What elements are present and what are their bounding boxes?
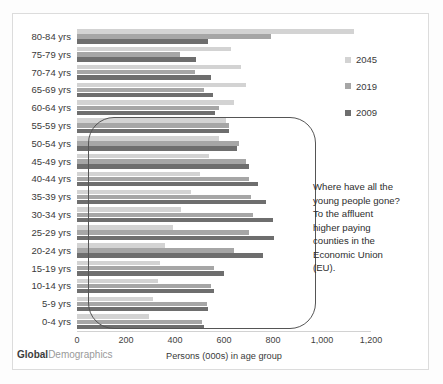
bar-group: 0-4 yrs bbox=[77, 313, 371, 331]
bar-group: 45-49 yrs bbox=[77, 153, 371, 171]
legend-label: 2009 bbox=[356, 108, 377, 118]
bar-2019 bbox=[77, 177, 249, 181]
category-label: 75-79 yrs bbox=[31, 50, 71, 60]
category-label: 25-29 yrs bbox=[31, 228, 71, 238]
brand-label: GlobalDemographics bbox=[17, 350, 113, 360]
x-tick-label: 0 bbox=[74, 335, 79, 345]
bar-2009 bbox=[77, 289, 214, 293]
bar-2009 bbox=[77, 164, 249, 168]
bar-2009 bbox=[77, 39, 208, 43]
bar-2045 bbox=[77, 207, 181, 211]
category-label: 55-59 yrs bbox=[31, 121, 71, 131]
bar-2019 bbox=[77, 230, 249, 234]
category-label: 80-84 yrs bbox=[31, 32, 71, 42]
x-axis-title: Persons (000s) in age group bbox=[166, 351, 282, 361]
category-label: 65-69 yrs bbox=[31, 85, 71, 95]
legend-item-2009[interactable]: 2009 bbox=[345, 108, 425, 118]
bar-2045 bbox=[77, 154, 209, 158]
bar-2019 bbox=[77, 34, 271, 38]
bar-group: 5-9 yrs bbox=[77, 295, 371, 313]
bar-2019 bbox=[77, 123, 229, 127]
bar-2045 bbox=[77, 279, 158, 283]
bar-group: 60-64 yrs bbox=[77, 99, 371, 117]
bar-2009 bbox=[77, 75, 211, 79]
x-tick-label: 800 bbox=[265, 335, 280, 345]
bar-2009 bbox=[77, 182, 258, 186]
bar-2009 bbox=[77, 253, 263, 257]
bar-2045 bbox=[77, 65, 241, 69]
category-label: 0-4 yrs bbox=[42, 317, 71, 327]
bar-2009 bbox=[77, 111, 215, 115]
legend-item-2019[interactable]: 2019 bbox=[345, 82, 425, 92]
bar-2045 bbox=[77, 100, 234, 104]
bar-2019 bbox=[77, 284, 211, 288]
bar-2009 bbox=[77, 129, 229, 133]
bar-2009 bbox=[77, 93, 213, 97]
bar-2009 bbox=[77, 271, 224, 275]
category-label: 40-44 yrs bbox=[31, 174, 71, 184]
bar-2019 bbox=[77, 88, 204, 92]
bar-group: 10-14 yrs bbox=[77, 278, 371, 296]
legend-swatch-icon bbox=[345, 110, 351, 116]
category-label: 35-39 yrs bbox=[31, 192, 71, 202]
bar-2009 bbox=[77, 218, 273, 222]
category-label: 15-19 yrs bbox=[31, 264, 71, 274]
bar-2045 bbox=[77, 136, 219, 140]
bar-2045 bbox=[77, 47, 231, 51]
legend-label: 2045 bbox=[356, 55, 377, 65]
bar-2045 bbox=[77, 83, 246, 87]
chart-legend: 204520192009 bbox=[345, 55, 425, 135]
bar-2019 bbox=[77, 106, 219, 110]
category-label: 70-74 yrs bbox=[31, 68, 71, 78]
bar-2045 bbox=[77, 29, 354, 33]
category-label: 45-49 yrs bbox=[31, 157, 71, 167]
bar-2045 bbox=[77, 118, 226, 122]
bar-2009 bbox=[77, 200, 266, 204]
annotation-text: Where have all the young people gone? To… bbox=[313, 180, 431, 275]
legend-swatch-icon bbox=[345, 57, 351, 63]
bar-2019 bbox=[77, 266, 214, 270]
bar-2009 bbox=[77, 146, 237, 150]
brand-primary: Global bbox=[17, 349, 48, 360]
bar-2009 bbox=[77, 325, 204, 329]
legend-label: 2019 bbox=[356, 82, 377, 92]
bar-2019 bbox=[77, 213, 253, 217]
bar-2045 bbox=[77, 314, 149, 318]
chart-screenshot: 80-84 yrs75-79 yrs70-74 yrs65-69 yrs60-6… bbox=[0, 0, 443, 384]
bar-2019 bbox=[77, 320, 202, 324]
bar-2009 bbox=[77, 307, 208, 311]
category-label: 30-34 yrs bbox=[31, 210, 71, 220]
x-tick-label: 600 bbox=[216, 335, 231, 345]
bar-group: 55-59 yrs bbox=[77, 117, 371, 135]
x-tick-label: 1,000 bbox=[311, 335, 334, 345]
bar-2019 bbox=[77, 159, 246, 163]
x-tick-label: 1,200 bbox=[360, 335, 383, 345]
bar-2019 bbox=[77, 195, 251, 199]
x-axis-line bbox=[77, 331, 371, 332]
bar-group: 50-54 yrs bbox=[77, 135, 371, 153]
category-label: 50-54 yrs bbox=[31, 139, 71, 149]
bar-2019 bbox=[77, 141, 239, 145]
category-label: 20-24 yrs bbox=[31, 246, 71, 256]
bar-group: 80-84 yrs bbox=[77, 28, 371, 46]
bar-2009 bbox=[77, 57, 196, 61]
bar-2019 bbox=[77, 248, 234, 252]
bar-2045 bbox=[77, 172, 200, 176]
bar-group: 75-79 yrs bbox=[77, 46, 371, 64]
bar-2019 bbox=[77, 70, 195, 74]
x-axis-ticks: 02004006008001,0001,200 bbox=[77, 335, 371, 349]
category-label: 60-64 yrs bbox=[31, 103, 71, 113]
bar-2045 bbox=[77, 243, 165, 247]
bar-group: 70-74 yrs bbox=[77, 64, 371, 82]
category-label: 10-14 yrs bbox=[31, 281, 71, 291]
legend-swatch-icon bbox=[345, 83, 351, 89]
bar-2045 bbox=[77, 297, 153, 301]
category-label: 5-9 yrs bbox=[42, 299, 71, 309]
bar-2045 bbox=[77, 190, 191, 194]
x-tick-label: 400 bbox=[167, 335, 182, 345]
bar-2019 bbox=[77, 302, 207, 306]
bar-2045 bbox=[77, 225, 173, 229]
legend-item-2045[interactable]: 2045 bbox=[345, 55, 425, 65]
bar-2009 bbox=[77, 236, 274, 240]
x-tick-label: 200 bbox=[118, 335, 133, 345]
